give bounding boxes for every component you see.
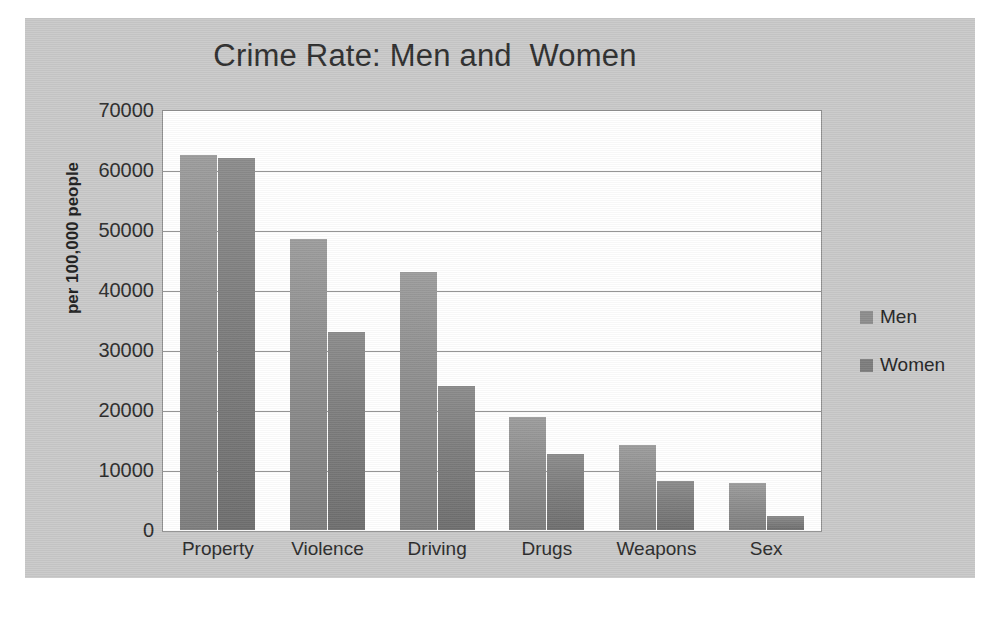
x-axis-tick-label: Driving — [382, 538, 492, 560]
legend-label: Women — [880, 354, 945, 376]
y-axis-tick-label: 60000 — [34, 159, 154, 182]
y-axis-tick-label: 0 — [34, 519, 154, 542]
bar-group — [163, 111, 273, 530]
bar-driving-men — [400, 272, 437, 530]
y-axis-tick-labels: 700006000050000400003000020000100000 — [32, 110, 154, 530]
bar-violence-men — [290, 239, 327, 530]
bar-group — [382, 111, 492, 530]
y-axis-tick-label: 40000 — [34, 279, 154, 302]
x-axis-tick-labels: PropertyViolenceDrivingDrugsWeaponsSex — [163, 538, 821, 568]
chart-title: Crime Rate: Men and Women — [25, 38, 825, 74]
bar-weapons-men — [619, 445, 656, 530]
bar-violence-women — [328, 332, 365, 530]
legend-item-men: Men — [860, 306, 980, 328]
bar-property-men — [180, 155, 217, 530]
chart-panel: Crime Rate: Men and Women per 100,000 pe… — [25, 18, 975, 578]
y-axis-tick-label: 10000 — [34, 459, 154, 482]
x-axis-tick-label: Violence — [273, 538, 383, 560]
x-axis-tick-label: Property — [163, 538, 273, 560]
caption-fragment — [73, 614, 373, 619]
legend-swatch-icon — [860, 359, 873, 372]
bar-group — [602, 111, 712, 530]
x-axis-tick-label: Drugs — [492, 538, 602, 560]
y-axis-tick-label: 30000 — [34, 339, 154, 362]
bar-driving-women — [438, 386, 475, 530]
x-axis-tick-label: Weapons — [602, 538, 712, 560]
y-axis-tick-label: 50000 — [34, 219, 154, 242]
bar-group — [492, 111, 602, 530]
bar-weapons-women — [657, 481, 694, 530]
bar-sex-men — [729, 483, 766, 530]
legend-swatch-icon — [860, 311, 873, 324]
y-axis-tick-label: 20000 — [34, 399, 154, 422]
y-axis-tick-label: 70000 — [34, 99, 154, 122]
legend-label: Men — [880, 306, 917, 328]
bar-sex-women — [767, 516, 804, 530]
bars-layer — [163, 111, 821, 530]
legend-item-women: Women — [860, 354, 980, 376]
chart-legend: MenWomen — [860, 306, 980, 402]
bar-property-women — [218, 158, 255, 530]
bar-group — [711, 111, 821, 530]
bar-drugs-men — [509, 417, 546, 530]
bar-drugs-women — [547, 454, 584, 530]
bar-group — [273, 111, 383, 530]
x-axis-tick-label: Sex — [711, 538, 821, 560]
